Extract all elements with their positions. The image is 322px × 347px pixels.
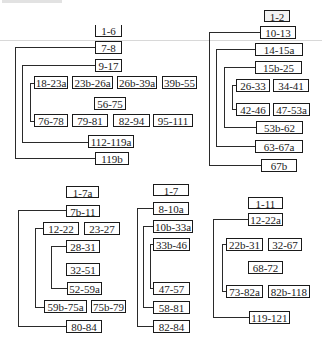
bracket-mid — [22, 65, 23, 143]
node-box: 18-23a — [34, 76, 68, 89]
bracket-outer — [15, 47, 16, 159]
diagram-canvas: 1-6 7-8 9-17 18-23a 23b-26a 26b-39a 39b-… — [0, 0, 322, 347]
node-box: 1-11 — [248, 197, 283, 209]
cropped-caption — [2, 0, 62, 3]
node-box: 67b — [261, 159, 297, 172]
node-box: 7b-11 — [66, 205, 100, 217]
node-box: 39b-55 — [162, 76, 197, 89]
node-box: 15b-25 — [255, 61, 302, 74]
bracket-outer-top — [137, 208, 153, 209]
bracket-3-bottom — [224, 127, 256, 128]
node-box: 47-53a — [273, 103, 310, 116]
node-box: 80-84 — [66, 320, 102, 333]
node-box: 10-13 — [260, 26, 296, 39]
bracket-outer — [209, 32, 210, 166]
node-box: 82-84 — [153, 320, 190, 333]
node-box: 14-15a — [255, 43, 303, 56]
node-box: 33b-46 — [153, 238, 190, 251]
node-box: 63-67a — [255, 140, 303, 153]
node-box: 1-6 — [95, 25, 122, 37]
node-box: 22b-31 — [226, 238, 263, 251]
bracket-outer-top — [209, 32, 260, 33]
bracket-mid — [35, 228, 36, 308]
bracket-outer-bottom — [18, 326, 66, 327]
node-box: 1-2 — [264, 10, 290, 22]
node-box: 76-78 — [34, 114, 68, 127]
bracket-2-top — [216, 49, 255, 50]
scan-line — [0, 40, 322, 41]
bracket-outer-bottom — [137, 326, 153, 327]
node-box: 82b-118 — [268, 285, 310, 298]
bracket-outer-bottom — [213, 317, 249, 318]
node-box: 26b-39a — [117, 76, 157, 89]
node-box: 119-121 — [249, 311, 290, 324]
bracket-outer-bottom — [15, 158, 95, 159]
node-box: 23b-26a — [72, 76, 113, 89]
bracket-outer-bottom — [209, 165, 261, 166]
node-box: 1-7 — [153, 184, 189, 196]
node-box: 56-75 — [94, 97, 126, 110]
bracket-inner — [51, 246, 52, 289]
bracket-mid-bottom — [143, 307, 153, 308]
bracket-outer-top — [15, 47, 95, 48]
bracket-3-top — [224, 67, 255, 68]
bracket-inner-top — [51, 246, 66, 247]
node-box: 7-8 — [95, 41, 122, 54]
node-box: 58-81 — [153, 301, 190, 314]
bracket-mid-top — [35, 228, 43, 229]
node-box: 42-46 — [236, 103, 270, 116]
node-box: 53b-62 — [256, 121, 303, 134]
node-box: 1-7a — [66, 186, 99, 198]
bracket-2 — [216, 49, 217, 147]
node-box: 28-31 — [66, 240, 100, 253]
node-box: 34-41 — [273, 79, 309, 92]
bracket-inner-bottom — [51, 288, 67, 289]
bracket-outer-top — [18, 210, 66, 211]
bracket-outer — [137, 208, 138, 327]
bracket-outer — [18, 210, 19, 327]
node-box: 73-82a — [226, 285, 263, 298]
node-box: 26-33 — [236, 79, 270, 92]
bracket-2-bottom — [216, 146, 255, 147]
bracket-mid-top — [22, 65, 95, 66]
node-box: 52-59a — [67, 282, 102, 295]
bracket-4 — [232, 85, 233, 110]
node-box: 12-22 — [43, 222, 79, 235]
node-box: 8-10a — [153, 202, 189, 215]
bracket-outer — [213, 219, 214, 318]
node-box: 75b-79 — [91, 300, 126, 313]
bracket-mid-bottom — [35, 307, 44, 308]
node-box: 47-57 — [153, 282, 190, 295]
node-box: 23-27 — [84, 222, 120, 235]
bracket-outer-top — [213, 219, 248, 220]
node-box: 119b — [95, 152, 129, 165]
node-box: 68-72 — [248, 261, 283, 274]
node-box: 12-22a — [248, 213, 283, 226]
bracket-inner — [222, 244, 223, 292]
node-box: 59b-75a — [44, 300, 87, 313]
node-box: 32-67 — [268, 238, 302, 251]
node-box: 9-17 — [95, 59, 122, 72]
bracket-mid — [143, 226, 144, 308]
node-box: 10b-33a — [153, 220, 193, 233]
bracket-mid-bottom — [22, 142, 88, 143]
bracket-3 — [224, 67, 225, 128]
node-box: 82-94 — [113, 114, 150, 127]
node-box: 95-111 — [153, 114, 193, 127]
bracket-inner — [150, 244, 151, 289]
node-box: 112-119a — [88, 135, 134, 148]
node-box: 79-81 — [72, 114, 108, 127]
bracket-inner — [30, 83, 31, 122]
bracket-mid-top — [143, 226, 153, 227]
node-box: 32-51 — [66, 263, 100, 276]
